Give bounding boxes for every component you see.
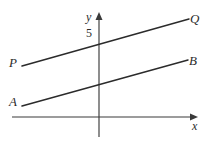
y-axis-label: y (86, 11, 91, 23)
x-axis-label: x (192, 120, 197, 132)
line-pq (22, 19, 189, 66)
point-label-b: B (189, 54, 197, 67)
point-label-a: A (9, 95, 17, 108)
y-axis-arrow-icon (96, 12, 103, 20)
diagram-canvas (0, 0, 211, 148)
point-label-p: P (9, 56, 17, 69)
coordinate-diagram: P Q A B y x 5 (0, 0, 211, 148)
y-axis-tick-label-5: 5 (86, 27, 92, 39)
point-label-q: Q (190, 12, 199, 25)
line-ab (22, 60, 188, 106)
